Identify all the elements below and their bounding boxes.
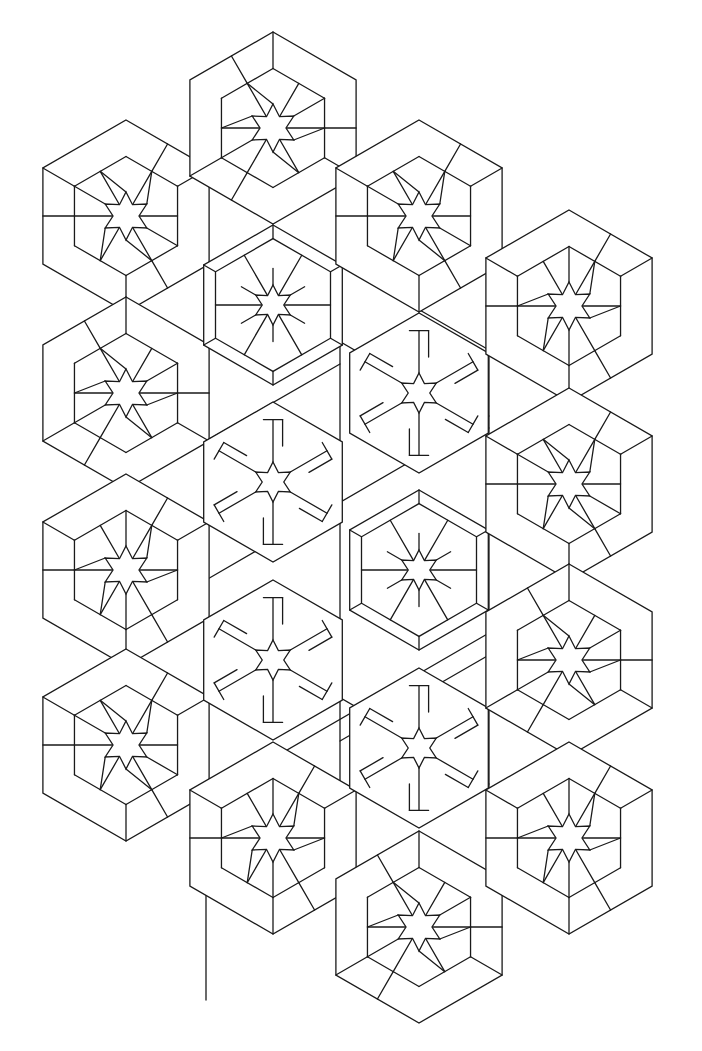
hexagon-tile-b2 xyxy=(204,225,343,385)
hexagon-tile-a4 xyxy=(43,649,209,841)
hexagon-tile-b1 xyxy=(190,32,356,224)
hexagon-tile-d3 xyxy=(486,564,652,756)
hexagon-tile-b5 xyxy=(190,742,356,934)
hexagon-tile-c3 xyxy=(350,490,489,650)
pattern-canvas xyxy=(0,0,702,1051)
hexagon-tile-a3 xyxy=(43,474,209,666)
hexagon-tile-b3 xyxy=(204,402,343,562)
hexagon-tile-d2 xyxy=(486,388,652,580)
hexagon-tiles xyxy=(43,32,652,1023)
hexagon-tile-b4 xyxy=(204,580,343,740)
hexagon-pattern-drawing xyxy=(0,0,702,1051)
hexagon-tile-d4 xyxy=(486,742,652,934)
hexagon-tile-c4 xyxy=(350,668,489,828)
hexagon-tile-a1 xyxy=(43,120,209,312)
hexagon-tile-d1 xyxy=(486,210,652,402)
hexagon-tile-c5 xyxy=(336,831,502,1023)
hexagon-tile-a2 xyxy=(43,297,209,489)
hexagon-tile-c1 xyxy=(336,120,502,312)
